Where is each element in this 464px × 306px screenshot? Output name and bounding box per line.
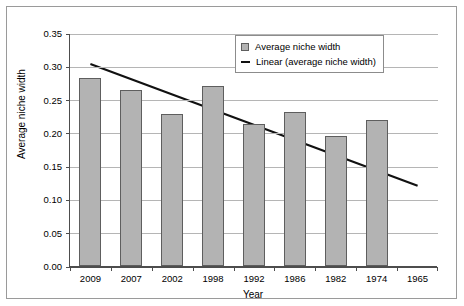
y-axis-tick-label: 0.35 bbox=[10, 29, 62, 39]
legend-label: Linear (average niche width) bbox=[256, 57, 376, 67]
legend-item-linear-trend: Linear (average niche width) bbox=[241, 55, 376, 68]
x-axis-tick-mark bbox=[111, 267, 112, 271]
x-axis-tick-mark bbox=[152, 267, 153, 271]
x-axis-tick-mark bbox=[193, 267, 194, 271]
x-axis-tick-mark bbox=[397, 267, 398, 271]
x-axis-tick-label: 2009 bbox=[70, 273, 111, 284]
y-axis-tick-mark bbox=[66, 200, 70, 201]
bar bbox=[161, 114, 183, 266]
bar bbox=[120, 90, 142, 266]
y-axis-tick-label: 0.30 bbox=[10, 62, 62, 72]
y-axis-tick-mark bbox=[66, 100, 70, 101]
bar bbox=[325, 136, 347, 266]
y-axis-tick-mark bbox=[66, 67, 70, 68]
y-axis-tick-label: 0.05 bbox=[10, 229, 62, 239]
chart-frame: Average niche width 0.000.050.100.150.20… bbox=[6, 6, 457, 299]
bar bbox=[202, 86, 224, 266]
x-axis-tick-mark bbox=[315, 267, 316, 271]
bar bbox=[79, 78, 101, 266]
y-axis-tick-label: 0.20 bbox=[10, 129, 62, 139]
y-axis-tick-label: 0.25 bbox=[10, 96, 62, 106]
x-axis-tick-label: 2007 bbox=[111, 273, 152, 284]
x-axis-tick-mark bbox=[70, 267, 71, 271]
legend-line-swatch-icon bbox=[241, 61, 250, 63]
y-axis-title: Average niche width bbox=[17, 69, 27, 159]
legend-label: Average niche width bbox=[255, 42, 340, 52]
y-axis-tick-label: 0.15 bbox=[10, 162, 62, 172]
y-axis-tick-mark bbox=[66, 133, 70, 134]
x-axis-tick-label: 1982 bbox=[315, 273, 356, 284]
x-axis-tick-label: 1992 bbox=[234, 273, 275, 284]
gridline bbox=[70, 267, 438, 268]
legend-item-average-niche-width: Average niche width bbox=[241, 40, 376, 53]
x-axis-tick-mark bbox=[234, 267, 235, 271]
legend-bar-swatch-icon bbox=[241, 43, 249, 51]
bar bbox=[243, 124, 265, 266]
y-axis-tick-label: 0.00 bbox=[10, 262, 62, 272]
x-axis-tick-mark bbox=[274, 267, 275, 271]
x-axis-tick-label: 1974 bbox=[356, 273, 397, 284]
x-axis-tick-label: 1998 bbox=[193, 273, 234, 284]
x-axis-tick-mark bbox=[437, 267, 438, 271]
y-axis-tick-label: 0.10 bbox=[10, 195, 62, 205]
y-axis-tick-mark bbox=[66, 233, 70, 234]
y-axis-tick-mark bbox=[66, 34, 70, 35]
x-axis-tick-label: 1986 bbox=[274, 273, 315, 284]
x-axis-tick-label: 2002 bbox=[152, 273, 193, 284]
x-axis-tick-mark bbox=[356, 267, 357, 271]
chart-container: Average niche width 0.000.050.100.150.20… bbox=[0, 0, 464, 306]
bar bbox=[366, 120, 388, 266]
x-axis-title: Year bbox=[69, 290, 437, 300]
chart-legend: Average niche width Linear (average nich… bbox=[235, 35, 384, 73]
y-axis-tick-mark bbox=[66, 167, 70, 168]
x-axis-tick-label: 1965 bbox=[397, 273, 438, 284]
bar bbox=[284, 112, 306, 266]
